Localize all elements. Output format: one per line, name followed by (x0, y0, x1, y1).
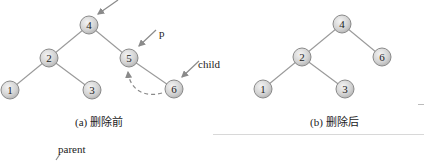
caption-b: (b) 删除后 (310, 113, 359, 129)
tree-node-5: 5 (120, 49, 138, 67)
bst-deletion-diagram: p child 4 2 5 1 3 6 4 2 6 1 3 (0, 0, 424, 162)
p-label: p (159, 27, 165, 39)
edge-mark (418, 104, 424, 105)
svg-text:5: 5 (126, 52, 132, 64)
svg-text:4: 4 (339, 18, 345, 30)
child-pointer-arrow-icon (182, 61, 199, 77)
reattach-dashed-arrow-icon (128, 72, 162, 94)
figure-a-nodes: 4 2 5 1 3 6 (1, 16, 183, 99)
tree-node-3: 3 (83, 81, 101, 99)
tree-node-2: 2 (40, 49, 58, 67)
caption-a: (a) 删除前 (75, 113, 123, 129)
tree-node-1: 1 (254, 80, 272, 98)
p-pointer-arrow-icon (139, 30, 156, 46)
tree-node-2: 2 (293, 48, 311, 66)
tree-node-6: 6 (373, 48, 391, 66)
svg-text:2: 2 (299, 51, 305, 63)
svg-text:1: 1 (7, 84, 13, 96)
svg-text:2: 2 (46, 52, 52, 64)
tree-node-4: 4 (333, 15, 351, 33)
svg-text:3: 3 (89, 84, 95, 96)
figure-b-edges (263, 24, 382, 89)
child-label: child (198, 58, 220, 70)
svg-text:6: 6 (379, 51, 385, 63)
svg-text:6: 6 (171, 83, 177, 95)
svg-text:3: 3 (342, 83, 348, 95)
svg-text:4: 4 (86, 19, 92, 31)
tree-node-1: 1 (1, 81, 19, 99)
figure-b-nodes: 4 2 6 1 3 (254, 15, 391, 98)
parent-label: parent (58, 143, 85, 155)
divider (213, 134, 424, 135)
tree-node-6: 6 (165, 80, 183, 98)
root-pointer-arrow-icon (98, 0, 118, 14)
tree-node-3: 3 (336, 80, 354, 98)
figure-a-edges (10, 25, 174, 90)
tree-node-4: 4 (80, 16, 98, 34)
svg-text:1: 1 (260, 83, 266, 95)
